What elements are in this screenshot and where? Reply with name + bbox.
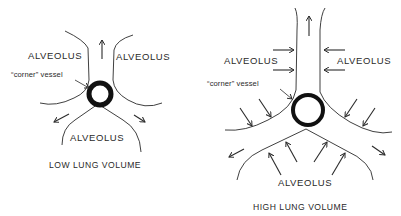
- label-alveolus-bottom: ALVEOLUS: [278, 177, 332, 188]
- alveolar-pressure-arrows: [240, 50, 375, 175]
- label-alveolus-top-left: ALVEOLUS: [224, 55, 278, 66]
- label-corner-vessel: “corner” vessel: [207, 79, 259, 88]
- vessel-pointer-line: [280, 89, 292, 99]
- label-alveolus-top-right: ALVEOLUS: [116, 51, 170, 62]
- panel-high-lung-volume: ALVEOLUS ALVEOLUS “corner” vessel ALVEOL…: [207, 8, 392, 212]
- corner-vessel-figure: ALVEOLUS ALVEOLUS “corner” vessel ALVEOL…: [0, 0, 401, 216]
- label-alveolus-bottom: ALVEOLUS: [70, 132, 124, 143]
- caption-low-lung-volume: LOW LUNG VOLUME: [49, 160, 141, 170]
- label-alveolus-top-right: ALVEOLUS: [337, 55, 391, 66]
- label-corner-vessel: “corner” vessel: [11, 70, 63, 79]
- corner-vessel-circle: [293, 95, 323, 125]
- caption-high-lung-volume: HIGH LUNG VOLUME: [253, 202, 347, 212]
- vessel-pointer-line: [75, 80, 89, 88]
- label-alveolus-top-left: ALVEOLUS: [28, 50, 82, 61]
- panel-low-lung-volume: ALVEOLUS ALVEOLUS “corner” vessel ALVEOL…: [11, 31, 170, 170]
- corner-vessel-circle: [89, 83, 111, 105]
